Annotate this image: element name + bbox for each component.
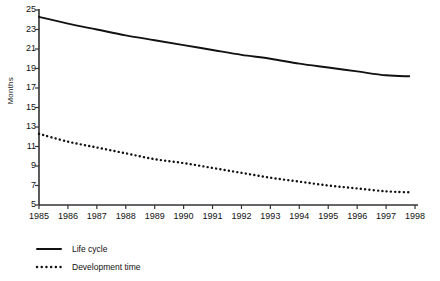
axis-lines: [39, 9, 418, 205]
series-line-0: [39, 17, 409, 76]
plot-area: [0, 0, 440, 281]
tick-marks: [35, 10, 415, 209]
data-series-layer: [39, 17, 409, 193]
legend-label-1: Development time: [72, 263, 141, 272]
legend-label-0: Life cycle: [72, 245, 107, 254]
legend-swatches: [37, 249, 61, 267]
line-chart: Months 2523211917151311975 1985198619871…: [0, 0, 440, 281]
series-line-1: [39, 134, 409, 193]
